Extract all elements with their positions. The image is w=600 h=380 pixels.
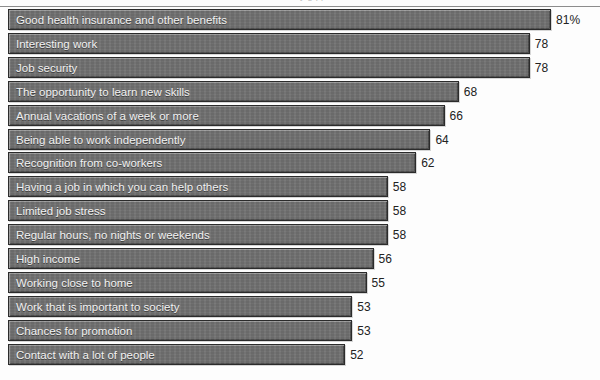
bar-value-label: 68 — [464, 81, 477, 102]
bar-category-label: Limited job stress — [16, 201, 105, 221]
bar-value-label: 78 — [535, 57, 548, 78]
bar-value-label: 58 — [393, 176, 406, 197]
bar[interactable]: Work that is important to society — [8, 296, 352, 317]
bar-category-label: High income — [16, 249, 80, 269]
bar[interactable]: Interesting work — [8, 33, 530, 54]
bar-category-label: Working close to home — [16, 273, 133, 293]
horizontal-bar-chart: Good health insurance and other benefits… — [0, 0, 600, 380]
bar[interactable]: Limited job stress — [8, 200, 388, 221]
bar-value-label: 52 — [350, 344, 363, 365]
bar-category-label: Being able to work independently — [16, 130, 185, 150]
bar-category-label: Work that is important to society — [16, 297, 179, 317]
bar-value-label: 53 — [357, 320, 370, 341]
bar[interactable]: Contact with a lot of people — [8, 344, 345, 365]
bar-category-label: Annual vacations of a week or more — [16, 106, 199, 126]
bar[interactable]: Recognition from co-workers — [8, 152, 416, 173]
bar-category-label: Recognition from co-workers — [16, 153, 162, 173]
bar[interactable]: Good health insurance and other benefits — [8, 9, 551, 30]
bar-value-label: 58 — [393, 200, 406, 221]
bar-value-label: 53 — [357, 296, 370, 317]
bar[interactable]: Regular hours, no nights or weekends — [8, 224, 388, 245]
bar-value-label: 66 — [450, 105, 463, 126]
bar[interactable]: Having a job in which you can help other… — [8, 176, 388, 197]
bar-category-label: The opportunity to learn new skills — [16, 82, 190, 102]
bar-value-label: 62 — [421, 152, 434, 173]
bar-value-label: 55 — [372, 272, 385, 293]
bar-value-label: 81% — [556, 9, 580, 30]
bar[interactable]: Job security — [8, 57, 530, 78]
bar[interactable]: Being able to work independently — [8, 129, 430, 150]
bar-category-label: Chances for promotion — [16, 321, 132, 341]
bar-category-label: Having a job in which you can help other… — [16, 177, 228, 197]
bar-value-label: 64 — [435, 129, 448, 150]
bar-category-label: Job security — [16, 58, 77, 78]
bar-value-label: 56 — [379, 248, 392, 269]
bar-category-label: Regular hours, no nights or weekends — [16, 225, 210, 245]
bar[interactable]: High income — [8, 248, 374, 269]
bar-value-label: 58 — [393, 224, 406, 245]
bar[interactable]: The opportunity to learn new skills — [8, 81, 459, 102]
bar[interactable]: Working close to home — [8, 272, 367, 293]
bar-category-label: Interesting work — [16, 34, 97, 54]
bar-category-label: Contact with a lot of people — [16, 345, 155, 365]
bar[interactable]: Annual vacations of a week or more — [8, 105, 445, 126]
bar-category-label: Good health insurance and other benefits — [16, 10, 227, 30]
bar[interactable]: Chances for promotion — [8, 320, 352, 341]
bar-value-label: 78 — [535, 33, 548, 54]
